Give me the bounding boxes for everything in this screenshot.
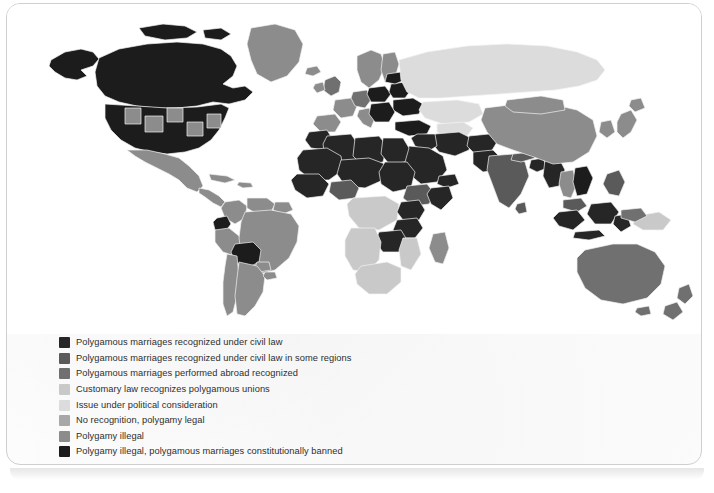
- legend-swatch-customary-law: [59, 384, 70, 395]
- legend-label-illegal: Polygamy illegal: [76, 432, 144, 441]
- scanned-page-frame: Polygamous marriages recognized under ci…: [6, 3, 702, 465]
- legend-swatch-illegal: [59, 431, 70, 442]
- legend-label-political-consideration: Issue under political consideration: [76, 401, 218, 410]
- legend-label-abroad-recognized: Polygamous marriages performed abroad re…: [76, 369, 298, 378]
- map-legend: Polygamous marriages recognized under ci…: [59, 335, 489, 460]
- legend-swatch-no-recognition-legal: [59, 415, 70, 426]
- legend-item-abroad-recognized[interactable]: Polygamous marriages performed abroad re…: [59, 366, 489, 382]
- legend-swatch-political-consideration: [59, 400, 70, 411]
- legend-label-illegal-constitutionally-banned: Polygamy illegal, polygamous marriages c…: [76, 447, 343, 456]
- page-drop-shadow: [10, 468, 704, 480]
- region-us-state-group-d: [187, 122, 203, 136]
- legend-item-illegal-constitutionally-banned[interactable]: Polygamy illegal, polygamous marriages c…: [59, 444, 489, 460]
- world-map-svg: [7, 4, 702, 334]
- legend-label-civil-law: Polygamous marriages recognized under ci…: [76, 338, 282, 347]
- legend-label-no-recognition-legal: No recognition, polygamy legal: [76, 416, 205, 425]
- legend-item-customary-law[interactable]: Customary law recognizes polygamous unio…: [59, 382, 489, 398]
- legend-swatch-civil-law-some-regions: [59, 353, 70, 364]
- legend-label-customary-law: Customary law recognizes polygamous unio…: [76, 385, 270, 394]
- legend-item-illegal[interactable]: Polygamy illegal: [59, 429, 489, 445]
- legend-label-civil-law-some-regions: Polygamous marriages recognized under ci…: [76, 354, 351, 363]
- legend-item-civil-law[interactable]: Polygamous marriages recognized under ci…: [59, 335, 489, 351]
- region-kenya: [397, 200, 425, 220]
- legend-item-no-recognition-legal[interactable]: No recognition, polygamy legal: [59, 413, 489, 429]
- legend-swatch-illegal-constitutionally-banned: [59, 446, 70, 457]
- world-map: [7, 4, 702, 334]
- legend-swatch-abroad-recognized: [59, 368, 70, 379]
- legend-item-civil-law-some-regions[interactable]: Polygamous marriages recognized under ci…: [59, 351, 489, 367]
- region-us-state-group-e: [207, 114, 221, 128]
- region-us-state-group-c: [167, 108, 183, 122]
- region-us-state-group-a: [125, 108, 141, 124]
- region-balkans: [369, 102, 395, 122]
- region-us-state-group-b: [145, 116, 163, 132]
- legend-item-political-consideration[interactable]: Issue under political consideration: [59, 397, 489, 413]
- legend-swatch-civil-law: [59, 337, 70, 348]
